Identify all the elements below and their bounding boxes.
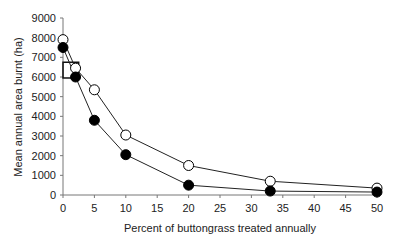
series-line (63, 40, 377, 188)
filled-point (58, 43, 68, 53)
x-tick-label: 10 (120, 202, 132, 214)
open-point (265, 176, 275, 186)
open-point (121, 130, 131, 140)
y-tick-label: 9000 (32, 12, 56, 24)
filled-point (265, 186, 275, 196)
filled-point (372, 187, 382, 197)
x-axis-label: Percent of buttongrass treated annually (124, 222, 317, 234)
series-line (63, 48, 377, 193)
x-tick-label: 5 (91, 202, 97, 214)
y-tick-label: 1000 (32, 169, 56, 181)
x-tick-label: 50 (371, 202, 383, 214)
series (58, 35, 382, 197)
filled-point (89, 115, 99, 125)
line-chart: 0100020003000400050006000700080009000051… (0, 0, 395, 247)
x-tick-label: 40 (308, 202, 320, 214)
axes: 0100020003000400050006000700080009000051… (32, 12, 384, 214)
y-tick-label: 4000 (32, 110, 56, 122)
x-tick-label: 15 (151, 202, 163, 214)
filled-point (71, 72, 81, 82)
y-tick-label: 8000 (32, 32, 56, 44)
open-point (184, 161, 194, 171)
open-point (89, 85, 99, 95)
x-tick-label: 35 (277, 202, 289, 214)
x-tick-label: 0 (60, 202, 66, 214)
y-tick-label: 2000 (32, 150, 56, 162)
y-tick-label: 0 (50, 189, 56, 201)
x-tick-label: 30 (245, 202, 257, 214)
x-tick-label: 25 (214, 202, 226, 214)
x-tick-label: 45 (339, 202, 351, 214)
filled-point (184, 180, 194, 190)
y-tick-label: 7000 (32, 51, 56, 63)
filled-point (121, 150, 131, 160)
y-tick-label: 3000 (32, 130, 56, 142)
y-tick-label: 6000 (32, 71, 56, 83)
y-tick-label: 5000 (32, 91, 56, 103)
x-tick-label: 20 (182, 202, 194, 214)
y-axis-label: Mean annual area burnt (ha) (12, 37, 24, 176)
